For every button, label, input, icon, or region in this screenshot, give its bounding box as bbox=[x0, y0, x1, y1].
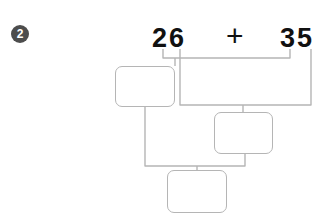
answer-box-ones-partial-sum[interactable] bbox=[214, 112, 273, 154]
addend-two: 35 bbox=[280, 22, 314, 54]
answer-box-total-sum[interactable] bbox=[167, 170, 227, 213]
addend-one: 26 bbox=[152, 22, 186, 54]
problem-number-badge: 2 bbox=[11, 25, 29, 43]
ones-bracket bbox=[180, 49, 311, 105]
answer-box-tens-partial-sum[interactable] bbox=[115, 66, 175, 107]
partial-sums-worksheet: 2 26 + 35 bbox=[0, 0, 334, 222]
plus-operator-icon: + bbox=[226, 20, 246, 52]
